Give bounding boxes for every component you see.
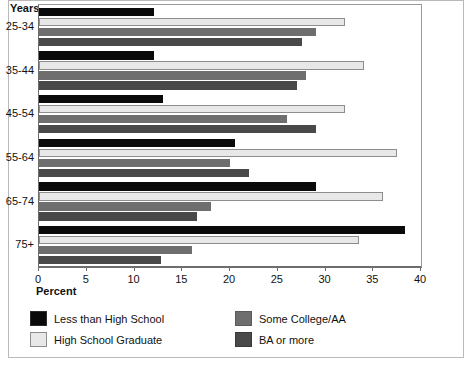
bar — [39, 226, 405, 235]
x-tick-label: 20 — [223, 273, 235, 285]
bar — [39, 256, 161, 265]
y-tick-label: 65-74 — [6, 195, 34, 207]
bar-row — [39, 8, 421, 17]
bar-row — [39, 105, 421, 114]
legend-item: BA or more — [235, 332, 314, 347]
y-tick-label: 35-44 — [6, 64, 34, 76]
x-tick — [134, 266, 135, 271]
bar-group — [39, 49, 421, 93]
x-tick-label: 40 — [414, 273, 426, 285]
bar-row — [39, 149, 421, 158]
bar-row — [39, 169, 421, 178]
bar — [39, 81, 297, 90]
bar-row — [39, 159, 421, 168]
bar-row — [39, 51, 421, 60]
bar — [39, 18, 345, 27]
bar-row — [39, 95, 421, 104]
x-tick-label: 0 — [35, 273, 41, 285]
bar-row — [39, 61, 421, 70]
bar — [39, 105, 345, 114]
legend-label: BA or more — [259, 334, 314, 346]
x-tick-label: 15 — [175, 273, 187, 285]
bar — [39, 169, 249, 178]
bar — [39, 202, 211, 211]
bar-row — [39, 236, 421, 245]
bar — [39, 125, 316, 134]
bar-row — [39, 202, 421, 211]
bar — [39, 182, 316, 191]
y-tick-label: 45-54 — [6, 107, 34, 119]
legend-label: Less than High School — [54, 313, 164, 325]
x-tick — [229, 266, 230, 271]
chart-figure: Years 25-3435-4445-5455-6465-7475+ Perce… — [0, 0, 471, 368]
bar-row — [39, 38, 421, 47]
legend-swatch — [30, 311, 47, 326]
x-tick — [181, 266, 182, 271]
bar — [39, 212, 197, 221]
bar-row — [39, 28, 421, 37]
bar — [39, 51, 154, 60]
legend-swatch — [235, 332, 252, 347]
bar — [39, 71, 306, 80]
x-tick-label: 30 — [318, 273, 330, 285]
bar-group — [39, 5, 421, 49]
legend-item: High School Graduate — [30, 332, 162, 347]
x-axis-title: Percent — [36, 285, 76, 297]
x-tick — [325, 266, 326, 271]
bar-row — [39, 71, 421, 80]
bar-row — [39, 81, 421, 90]
bar — [39, 8, 154, 17]
bar — [39, 139, 235, 148]
bar-row — [39, 182, 421, 191]
legend-label: High School Graduate — [54, 334, 162, 346]
bar — [39, 28, 316, 37]
bar-row — [39, 18, 421, 27]
bar — [39, 192, 383, 201]
y-tick-label: 55-64 — [6, 151, 34, 163]
bar-group — [39, 92, 421, 136]
legend-swatch — [235, 311, 252, 326]
bar-group — [39, 223, 421, 267]
bar-group — [39, 136, 421, 180]
x-tick-label: 35 — [366, 273, 378, 285]
x-tick — [277, 266, 278, 271]
bar-row — [39, 212, 421, 221]
x-tick — [420, 266, 421, 271]
bar — [39, 95, 163, 104]
legend-swatch — [30, 332, 47, 347]
bar — [39, 159, 230, 168]
legend-label: Some College/AA — [259, 313, 346, 325]
bar-row — [39, 192, 421, 201]
bar — [39, 149, 397, 158]
bar-row — [39, 226, 421, 235]
bar-row — [39, 256, 421, 265]
bar-row — [39, 115, 421, 124]
bar-row — [39, 139, 421, 148]
y-axis-tick-labels: 25-3435-4445-5455-6465-7475+ — [0, 0, 34, 368]
plot-area — [38, 4, 422, 268]
x-tick — [372, 266, 373, 271]
bar — [39, 115, 287, 124]
legend-item: Some College/AA — [235, 311, 346, 326]
y-tick-label: 25-34 — [6, 20, 34, 32]
x-tick-label: 25 — [271, 273, 283, 285]
bar — [39, 38, 302, 47]
x-tick — [86, 266, 87, 271]
y-tick-label: 75+ — [15, 238, 34, 250]
x-tick-label: 5 — [83, 273, 89, 285]
bar — [39, 246, 192, 255]
bar-group — [39, 180, 421, 224]
x-axis-line — [38, 266, 420, 267]
bar-row — [39, 125, 421, 134]
chart-legend: Less than High SchoolHigh School Graduat… — [30, 311, 430, 351]
bar-row — [39, 246, 421, 255]
x-tick-label: 10 — [127, 273, 139, 285]
x-tick — [38, 266, 39, 271]
bar — [39, 61, 364, 70]
legend-item: Less than High School — [30, 311, 164, 326]
bar — [39, 236, 359, 245]
